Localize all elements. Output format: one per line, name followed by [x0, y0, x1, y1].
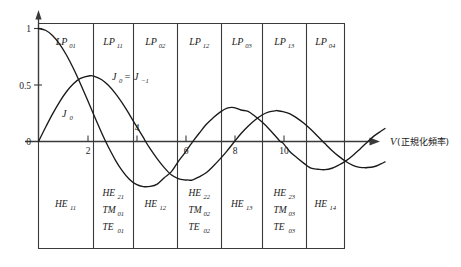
bottom-mode-symbol-0-0: HE [54, 199, 68, 209]
bottom-mode-symbol-1-0: HE [102, 188, 116, 198]
bottom-mode-label-3-2: TE02 [189, 222, 211, 234]
bottom-mode-subscript-3-2: 02 [204, 227, 211, 234]
curve-annotation-j0: J 0 [62, 108, 74, 121]
bottom-mode-label-0-0: HE11 [54, 199, 76, 211]
bottom-mode-symbol-6-0: HE [314, 199, 328, 209]
top-mode-symbol-2: LP [144, 36, 157, 47]
bottom-mode-label-3-0: HE22 [188, 188, 211, 200]
curve-j0 [39, 29, 386, 187]
bottom-mode-label-6-0: HE14 [314, 199, 337, 211]
top-mode-symbol-1: LP [102, 36, 115, 47]
bottom-mode-subscript-2-0: 12 [160, 204, 167, 211]
y-tick-label-05: 0.5 [19, 81, 31, 91]
bottom-mode-label-4-0: HE13 [230, 199, 253, 211]
bessel-curves [39, 29, 386, 187]
bottom-mode-subscript-1-0: 21 [118, 193, 125, 200]
top-mode-symbol-3: LP [188, 36, 201, 47]
y-tick-label-1: 1 [26, 24, 31, 34]
top-mode-label-6: LP04 [314, 36, 336, 49]
bottom-mode-subscript-0-0: 11 [70, 204, 76, 211]
bottom-mode-subscript-5-0: 23 [289, 193, 296, 200]
top-mode-symbol-0: LP [55, 36, 68, 47]
top-mode-subscript-4: 03 [245, 42, 252, 49]
j0eq-subscript-2: −1 [141, 77, 149, 84]
curve-annotation-j0-eq-jm1: J 0 = J −1 [112, 71, 149, 84]
top-mode-subscript-3: 12 [203, 42, 210, 49]
bottom-mode-symbol-1-1: TM [103, 205, 117, 215]
j0eq-equals: = [124, 71, 131, 82]
x-tick-label-10: 10 [279, 146, 289, 156]
y-tick-label-0: 0 [26, 137, 31, 147]
bottom-mode-subscript-5-2: 03 [289, 227, 296, 234]
top-mode-label-3: LP12 [188, 36, 210, 49]
x-axis-label: V (正規化頻率) [390, 136, 449, 147]
top-mode-label-1: LP11 [102, 36, 123, 49]
x-axis-label-text: (正規化頻率) [397, 136, 449, 147]
bessel-lp-mode-figure: 1 0.5 0 2 4 6 8 10 J 0 J 0 = J [0, 0, 461, 267]
bottom-mode-subscript-4-0: 13 [246, 204, 253, 211]
bottom-mode-symbol-4-0: HE [230, 199, 244, 209]
top-mode-symbol-6: LP [314, 36, 327, 47]
bottom-mode-label-1-2: TE01 [103, 222, 125, 234]
bottom-mode-subscript-3-1: 02 [204, 210, 211, 217]
x-tick-label-8: 8 [233, 146, 238, 156]
x-axis-ticks [88, 136, 284, 142]
bottom-mode-label-5-2: TE03 [274, 222, 296, 234]
x-tick-label-2: 2 [86, 146, 91, 156]
top-mode-symbol-4: LP [231, 36, 244, 47]
top-mode-subscript-6: 04 [329, 42, 336, 49]
top-mode-label-0: LP01 [55, 36, 76, 49]
top-mode-label-5: LP13 [273, 36, 295, 49]
bottom-mode-subscript-6-0: 14 [330, 204, 337, 211]
y-axis-arrowhead [35, 10, 41, 20]
bottom-mode-symbol-3-1: TM [189, 205, 203, 215]
bottom-mode-symbol-1-2: TE [103, 222, 114, 232]
bottom-mode-subscript-5-1: 03 [289, 210, 296, 217]
j0eq-symbol-2: J [134, 71, 139, 82]
bottom-mode-labels: HE11HE21TM01TE01HE12HE22TM02TE02HE13HE23… [54, 188, 337, 234]
bottom-mode-label-5-1: TM03 [274, 205, 296, 217]
bottom-mode-subscript-3-0: 22 [204, 193, 211, 200]
bottom-mode-subscript-1-1: 01 [118, 210, 125, 217]
top-mode-labels: LP01LP11LP02LP12LP03LP13LP04 [55, 36, 336, 49]
bottom-mode-symbol-2-0: HE [144, 199, 158, 209]
bottom-mode-symbol-3-2: TE [189, 222, 200, 232]
top-mode-subscript-1: 11 [117, 42, 123, 49]
bottom-mode-subscript-1-2: 01 [118, 227, 125, 234]
bottom-mode-label-5-0: HE23 [273, 188, 296, 200]
top-mode-subscript-5: 13 [288, 42, 295, 49]
top-mode-symbol-5: LP [273, 36, 286, 47]
bottom-mode-symbol-5-0: HE [273, 188, 287, 198]
curve-j1 [39, 76, 386, 181]
top-mode-subscript-2: 02 [159, 42, 166, 49]
bottom-mode-label-3-1: TM02 [189, 205, 211, 217]
bottom-mode-symbol-3-0: HE [188, 188, 202, 198]
top-mode-label-4: LP03 [231, 36, 253, 49]
bottom-mode-symbol-5-2: TE [274, 222, 285, 232]
curve-label-j0-subscript: 0 [70, 114, 74, 121]
j0eq-subscript-1: 0 [119, 77, 123, 84]
j0eq-symbol-1: J [112, 71, 117, 82]
curve-label-j0-symbol: J [62, 108, 67, 119]
top-mode-subscript-0: 01 [69, 42, 76, 49]
figure-svg: 1 0.5 0 2 4 6 8 10 J 0 J 0 = J [0, 0, 461, 267]
top-mode-label-2: LP02 [144, 36, 166, 49]
bottom-mode-label-1-0: HE21 [102, 188, 125, 200]
bottom-mode-label-2-0: HE12 [144, 199, 167, 211]
bottom-mode-label-1-1: TM01 [103, 205, 125, 217]
bottom-mode-symbol-5-1: TM [274, 205, 288, 215]
